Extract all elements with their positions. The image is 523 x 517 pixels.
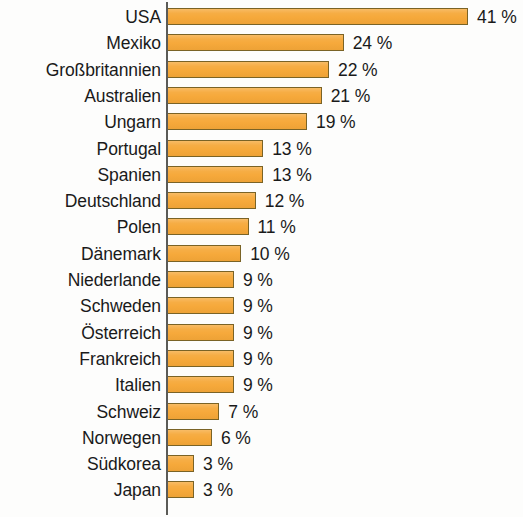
category-label: Frankreich: [79, 346, 161, 372]
bar: [168, 218, 249, 235]
bar: [168, 429, 212, 446]
bar: [168, 192, 256, 209]
category-label: Österreich: [81, 320, 161, 346]
value-label: 7 %: [228, 399, 258, 425]
bar-chart: USA41 %Mexiko24 %Großbritannien22 %Austr…: [0, 0, 523, 517]
bar: [168, 271, 234, 288]
bar-gradient: [168, 88, 321, 103]
bar-gradient: [168, 246, 240, 261]
bar-row: Schweiz7 %: [0, 399, 523, 425]
bar-row: Ungarn19 %: [0, 109, 523, 135]
value-label: 22 %: [338, 57, 378, 83]
category-label: Polen: [117, 214, 161, 240]
bar-row: Japan3 %: [0, 477, 523, 503]
bar: [168, 350, 234, 367]
category-label: Australien: [84, 83, 161, 109]
bar: [168, 481, 194, 498]
bar-gradient: [168, 114, 306, 129]
bar: [168, 324, 234, 341]
category-label: Portugal: [97, 136, 161, 162]
category-label: Niederlande: [68, 267, 161, 293]
bar-row: Spanien13 %: [0, 162, 523, 188]
bar: [168, 455, 194, 472]
bar: [168, 34, 344, 51]
category-label: Dänemark: [81, 241, 161, 267]
value-label: 12 %: [265, 188, 305, 214]
value-label: 9 %: [243, 346, 273, 372]
bar-gradient: [168, 298, 233, 313]
bar: [168, 166, 263, 183]
bar-row: Dänemark10 %: [0, 241, 523, 267]
bar-row: Italien9 %: [0, 372, 523, 398]
value-label: 3 %: [203, 451, 233, 477]
bar: [168, 61, 329, 78]
category-label: USA: [125, 4, 161, 30]
category-label: Südkorea: [87, 451, 161, 477]
category-label: Mexiko: [106, 30, 161, 56]
value-label: 21 %: [331, 83, 371, 109]
bar-gradient: [168, 9, 467, 24]
value-label: 9 %: [243, 293, 273, 319]
value-label: 9 %: [243, 372, 273, 398]
value-label: 9 %: [243, 267, 273, 293]
category-label: Schweiz: [97, 399, 161, 425]
bar: [168, 245, 241, 262]
bar-gradient: [168, 351, 233, 366]
category-label: Großbritannien: [46, 57, 161, 83]
value-label: 11 %: [258, 214, 296, 240]
value-label: 24 %: [353, 30, 393, 56]
bar-row: Südkorea3 %: [0, 451, 523, 477]
bar-row: Frankreich9 %: [0, 346, 523, 372]
bar-gradient: [168, 377, 233, 392]
bar: [168, 403, 219, 420]
bar-row: Deutschland12 %: [0, 188, 523, 214]
value-label: 19 %: [316, 109, 356, 135]
bar-row: Niederlande9 %: [0, 267, 523, 293]
bar: [168, 87, 322, 104]
value-label: 3 %: [203, 477, 233, 503]
category-label: Japan: [114, 477, 161, 503]
category-label: Schweden: [80, 293, 161, 319]
bar-gradient: [168, 272, 233, 287]
value-label: 9 %: [243, 320, 273, 346]
bar-gradient: [168, 141, 262, 156]
value-label: 41 %: [477, 4, 517, 30]
bar: [168, 140, 263, 157]
bar-gradient: [168, 62, 328, 77]
bar-gradient: [168, 219, 248, 234]
bar: [168, 297, 234, 314]
bar-row: Portugal13 %: [0, 136, 523, 162]
bar-gradient: [168, 167, 262, 182]
bar-row: Norwegen6 %: [0, 425, 523, 451]
bar-gradient: [168, 35, 343, 50]
category-label: Ungarn: [104, 109, 161, 135]
bar-gradient: [168, 325, 233, 340]
bar-gradient: [168, 404, 218, 419]
bar: [168, 113, 307, 130]
value-label: 10 %: [250, 241, 290, 267]
bar-gradient: [168, 430, 211, 445]
bar-row: Polen11 %: [0, 214, 523, 240]
category-label: Deutschland: [65, 188, 161, 214]
bar-row: Großbritannien22 %: [0, 57, 523, 83]
bar-row: Österreich9 %: [0, 320, 523, 346]
bar-row: Australien21 %: [0, 83, 523, 109]
bar-gradient: [168, 193, 255, 208]
bar-gradient: [168, 482, 193, 497]
bar: [168, 376, 234, 393]
category-label: Spanien: [97, 162, 161, 188]
plot-area: USA41 %Mexiko24 %Großbritannien22 %Austr…: [0, 0, 523, 517]
bar: [168, 8, 468, 25]
bar-gradient: [168, 456, 193, 471]
bar-row: USA41 %: [0, 4, 523, 30]
bar-row: Mexiko24 %: [0, 30, 523, 56]
value-label: 13 %: [272, 136, 312, 162]
bar-row: Schweden9 %: [0, 293, 523, 319]
value-label: 6 %: [221, 425, 251, 451]
category-label: Italien: [115, 372, 161, 398]
value-label: 13 %: [272, 162, 312, 188]
category-label: Norwegen: [82, 425, 161, 451]
